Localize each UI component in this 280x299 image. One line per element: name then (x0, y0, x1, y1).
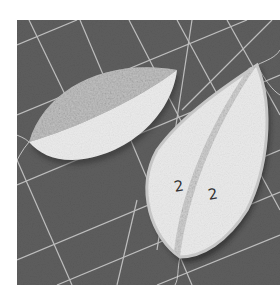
photo: 2 2 (17, 20, 280, 285)
photo-canvas: 2 2 (17, 20, 280, 285)
